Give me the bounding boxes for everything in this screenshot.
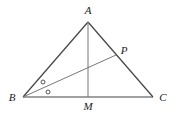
side-ac: [88, 22, 153, 97]
side-ab: [23, 22, 88, 97]
label-c: C: [159, 91, 167, 103]
angle-mark-circle-lower: [46, 90, 50, 94]
label-p: P: [120, 44, 128, 56]
angle-mark-circle-upper: [41, 80, 45, 84]
label-m: M: [82, 100, 93, 112]
label-b: B: [9, 91, 16, 103]
label-a: A: [84, 4, 92, 16]
segment-bp: [23, 55, 116, 97]
triangle-diagram: A B C M P: [0, 0, 177, 114]
